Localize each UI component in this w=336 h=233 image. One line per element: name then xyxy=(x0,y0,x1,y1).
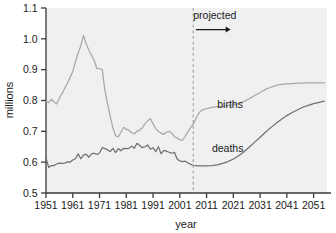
x-tick-label: 1961 xyxy=(61,199,85,211)
x-tick-label: 1991 xyxy=(141,199,165,211)
x-tick-label: 2031 xyxy=(248,199,272,211)
x-tick-label: 2001 xyxy=(168,199,192,211)
projected-annotation-label: projected xyxy=(193,9,236,21)
y-tick-label: 0.9 xyxy=(23,63,38,75)
population-line-chart: 0.50.60.70.80.91.01.1 195119611971198119… xyxy=(0,0,336,233)
y-tick-label: 1.1 xyxy=(23,2,38,14)
x-tick-label: 1971 xyxy=(88,199,112,211)
y-tick-label: 0.6 xyxy=(23,156,38,168)
x-tick-label: 1981 xyxy=(115,199,139,211)
y-tick-label: 1.0 xyxy=(23,33,38,45)
x-axis-title: year xyxy=(175,218,197,230)
chart-canvas: 0.50.60.70.80.91.01.1 195119611971198119… xyxy=(0,0,336,233)
x-tick-label: 2051 xyxy=(302,199,326,211)
series-label-births: births xyxy=(217,98,243,110)
x-tick-label: 2011 xyxy=(195,199,218,211)
y-tick-label: 0.7 xyxy=(23,125,38,137)
plot-area-background xyxy=(46,8,327,193)
series-label-deaths: deaths xyxy=(212,142,244,154)
y-tick-label: 0.5 xyxy=(23,187,38,199)
y-tick-label: 0.8 xyxy=(23,94,38,106)
y-axis-title: millions xyxy=(3,81,15,118)
x-tick-label: 2041 xyxy=(275,199,299,211)
x-tick-label: 2021 xyxy=(222,199,246,211)
x-tick-label: 1951 xyxy=(34,199,58,211)
